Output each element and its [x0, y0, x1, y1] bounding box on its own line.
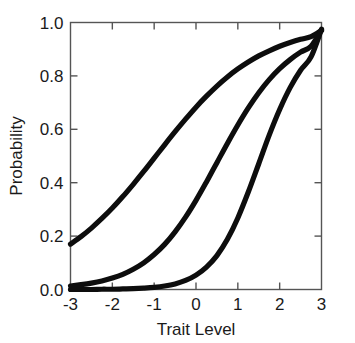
- x-tick-label: 0: [191, 295, 200, 314]
- x-tick-label: -3: [63, 295, 78, 314]
- x-tick-label: -2: [105, 295, 120, 314]
- y-tick-label: 0.4: [40, 174, 64, 193]
- y-tick-label: 0.8: [40, 67, 64, 86]
- x-tick-label: 3: [317, 295, 326, 314]
- trait-level-probability-chart: -3-2-10123 0.00.20.40.60.81.0 Trait Leve…: [0, 0, 355, 343]
- y-tick-label: 1.0: [40, 14, 64, 33]
- x-tick-label: -1: [147, 295, 162, 314]
- y-tick-label: 0.2: [40, 227, 64, 246]
- y-axis-title: Probability: [7, 116, 26, 196]
- y-tick-label: 0.0: [40, 281, 64, 300]
- x-tick-label: 1: [233, 295, 242, 314]
- plot-canvas: -3-2-10123 0.00.20.40.60.81.0 Trait Leve…: [0, 0, 355, 343]
- y-tick-label: 0.6: [40, 120, 64, 139]
- x-tick-label: 2: [275, 295, 284, 314]
- x-axis-title: Trait Level: [157, 320, 236, 339]
